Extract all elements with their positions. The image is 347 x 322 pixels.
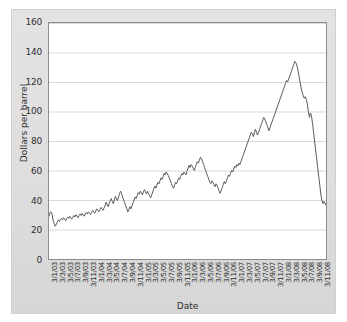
y-tick-label: 80 xyxy=(31,136,42,146)
x-axis-title: Date xyxy=(48,301,327,311)
chart-panel: Dollars per barrel 020406080100120140160… xyxy=(12,10,335,313)
x-tick-label: 3/3/07 xyxy=(246,262,254,283)
x-tick-label: 3/9/04 xyxy=(129,262,137,283)
x-tick-label: 3/3/03 xyxy=(59,262,67,283)
y-tick-label: 40 xyxy=(31,196,42,206)
x-axis-tick-labels: 3/1/033/3/033/5/033/7/033/9/033/11/033/1… xyxy=(48,262,327,302)
x-tick-label: 3/9/03 xyxy=(82,262,90,283)
x-tick-label: 3/5/07 xyxy=(254,262,262,283)
y-tick-label: 160 xyxy=(25,17,42,27)
y-tick-label: 0 xyxy=(36,255,42,265)
x-tick-label: 3/3/08 xyxy=(293,262,301,283)
x-tick-label: 3/1/04 xyxy=(98,262,106,283)
x-tick-label: 3/9/05 xyxy=(176,262,184,283)
y-tick-label: 20 xyxy=(31,225,42,235)
x-tick-label: 3/9/08 xyxy=(316,262,324,283)
x-tick-label: 3/11/07 xyxy=(277,262,285,287)
y-tick-label: 120 xyxy=(25,77,42,87)
plot-area xyxy=(48,22,327,260)
x-tick-label: 3/3/06 xyxy=(199,262,207,283)
x-tick-label: 3/11/03 xyxy=(90,262,98,287)
series-line-crude-oil-price xyxy=(49,61,326,226)
x-tick-label: 3/5/05 xyxy=(160,262,168,283)
y-tick-label: 100 xyxy=(25,106,42,116)
x-tick-label: 3/7/05 xyxy=(168,262,176,283)
x-tick-label: 3/1/03 xyxy=(51,262,59,283)
y-tick-label: 60 xyxy=(31,166,42,176)
y-tick-label: 140 xyxy=(25,47,42,57)
x-tick-label: 3/1/07 xyxy=(238,262,246,283)
gridlines xyxy=(49,23,326,230)
x-tick-label: 3/11/04 xyxy=(137,262,145,287)
line-chart-svg xyxy=(49,23,326,259)
x-tick-label: 3/5/06 xyxy=(207,262,215,283)
x-tick-label: 3/7/04 xyxy=(121,262,129,283)
x-tick-label: 3/7/06 xyxy=(215,262,223,283)
y-axis-tick-labels: 020406080100120140160 xyxy=(12,10,46,272)
x-tick-label: 3/11/08 xyxy=(324,262,332,287)
x-tick-label: 3/1/08 xyxy=(285,262,293,283)
